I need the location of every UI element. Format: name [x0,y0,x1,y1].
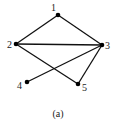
node-label-2: 2 [7,39,12,50]
figure-caption: (a) [52,108,63,120]
node-label-5: 5 [82,82,87,93]
edge-1-3 [58,15,102,45]
node-label-4: 4 [17,80,22,91]
node-5 [76,82,81,87]
edge-2-3 [16,44,102,45]
graph-diagram: 12345 (a) [0,0,118,124]
node-2 [14,42,19,47]
node-label-3: 3 [105,40,110,51]
edge-1-2 [16,15,58,44]
node-4 [25,80,30,85]
node-3 [100,43,105,48]
node-label-1: 1 [51,2,56,13]
node-1 [56,13,61,18]
edge-2-5 [16,44,78,84]
nodes-layer [14,13,105,87]
edges-layer [16,15,102,84]
